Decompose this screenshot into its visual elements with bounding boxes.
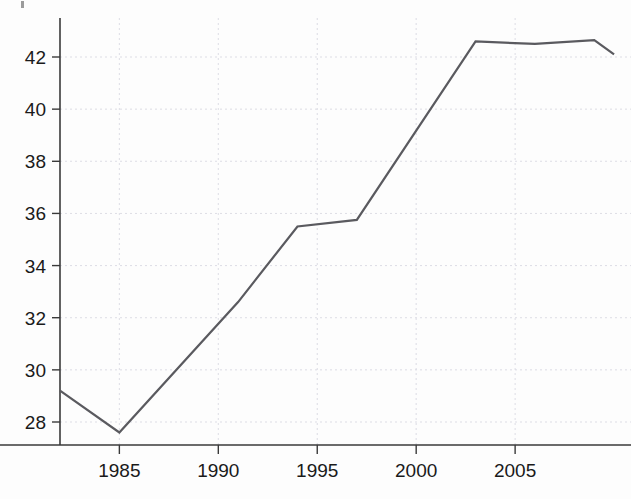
x-tick-label-1990: 1990 xyxy=(197,460,239,481)
y-tick-label-38: 38 xyxy=(25,151,46,172)
line-chart: 2830323436384042 19851990199520002005 xyxy=(0,0,631,499)
chart-canvas: 2830323436384042 19851990199520002005 xyxy=(0,0,631,499)
y-axis-tick-labels: 2830323436384042 xyxy=(25,47,47,433)
y-tick-label-36: 36 xyxy=(25,203,46,224)
x-tick-label-2005: 2005 xyxy=(494,460,536,481)
x-tick-label-1995: 1995 xyxy=(296,460,338,481)
x-axis-tick-labels: 19851990199520002005 xyxy=(98,460,536,481)
horizontal-gridlines xyxy=(60,57,631,422)
series-line-series-1 xyxy=(60,40,614,432)
y-tick-label-34: 34 xyxy=(25,256,47,277)
x-axis-ticks xyxy=(119,445,515,454)
y-axis-ticks xyxy=(52,57,60,422)
data-series-group xyxy=(60,40,614,432)
y-tick-label-28: 28 xyxy=(25,412,46,433)
y-tick-label-40: 40 xyxy=(25,99,46,120)
y-tick-label-30: 30 xyxy=(25,360,46,381)
y-tick-label-32: 32 xyxy=(25,308,46,329)
vertical-gridlines xyxy=(119,18,515,445)
x-tick-label-2000: 2000 xyxy=(395,460,437,481)
scan-artifact-mark xyxy=(21,1,24,8)
y-tick-label-42: 42 xyxy=(25,47,46,68)
x-tick-label-1985: 1985 xyxy=(98,460,140,481)
